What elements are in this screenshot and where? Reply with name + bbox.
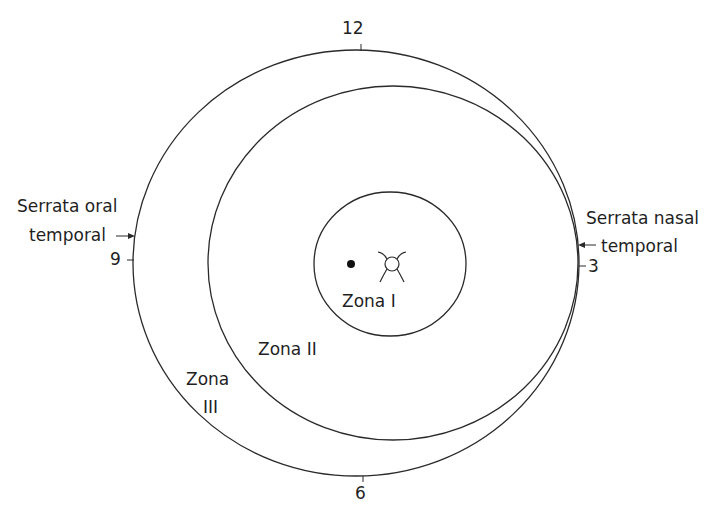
clock-label-6: 6 <box>355 483 366 504</box>
serrata-oral-temporal-label: temporal <box>29 225 106 246</box>
serrata-nasal-temporal-label: temporal <box>601 236 678 257</box>
middle-circle-zone-ii <box>208 86 578 440</box>
arrow-right-icon <box>578 242 596 248</box>
outer-circle-zone-iii <box>133 50 579 476</box>
serrata-oral-label: Serrata oral <box>17 196 117 217</box>
inner-circle-zone-i <box>314 192 466 336</box>
zone-iii-label-line2: III <box>203 397 218 418</box>
clock-label-12: 12 <box>342 18 364 39</box>
zone-iii-label-line1: Zona <box>186 369 229 390</box>
zone-ii-label: Zona II <box>258 339 317 360</box>
clock-label-9: 9 <box>110 249 121 270</box>
serrata-nasal-label: Serrata nasal <box>586 208 699 229</box>
fovea-dot-icon <box>347 260 355 268</box>
clock-label-3: 3 <box>588 256 599 277</box>
arrow-left-icon <box>116 233 135 239</box>
optic-disc-icon <box>378 252 406 282</box>
zone-i-label: Zona I <box>342 291 396 312</box>
